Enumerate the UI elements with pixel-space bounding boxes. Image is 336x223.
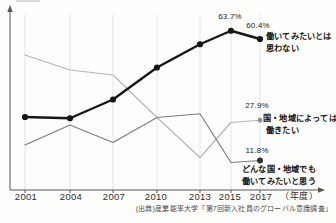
series-label-depends-line2: 働きたい xyxy=(266,127,299,135)
x-tick-label-2010: 2010 xyxy=(145,192,167,202)
x-axis-arrow-icon xyxy=(318,187,325,192)
data-point xyxy=(257,36,263,42)
series-label-depends-line1: 国・地域によっては xyxy=(263,115,336,123)
series-label-not-want-line1: 働いてみたいとは xyxy=(266,33,332,41)
series-label-not-want-line2: 思わない xyxy=(266,45,299,53)
x-tick-label-2013: 2013 xyxy=(189,192,211,202)
series-line-1 xyxy=(25,55,260,158)
series-line-0 xyxy=(25,31,260,119)
series-line-2 xyxy=(25,114,260,163)
data-point xyxy=(110,96,116,102)
data-point xyxy=(257,158,263,164)
x-tick-label-2001: 2001 xyxy=(15,192,37,202)
data-point xyxy=(67,115,73,121)
value-label-63-7: 63.7% xyxy=(218,13,242,21)
series-label-anywhere-line1: どんな国・地域でも xyxy=(242,166,316,174)
y-axis-arrow-icon xyxy=(7,5,12,12)
data-point xyxy=(154,64,160,70)
data-point xyxy=(258,118,263,123)
x-tick-label-2004: 2004 xyxy=(60,192,82,202)
x-tick-label-2015: 2015 xyxy=(219,192,241,202)
x-tick-label-2007: 2007 xyxy=(103,192,125,202)
data-point xyxy=(228,28,234,34)
survey-line-chart: 63.7% 60.4% 27.9% 11.8% 働いてみたいとは 思わない 国・… xyxy=(0,0,336,223)
series-label-anywhere-line2: 働いてみたいと思う xyxy=(242,178,316,186)
data-point xyxy=(197,41,203,47)
data-point xyxy=(22,114,28,120)
source-citation: (出典)産業能率大学「第7回新入社員のグローバル意識調査」 xyxy=(136,203,332,213)
x-tick-label-2017: 2017 xyxy=(250,192,272,202)
value-label-60-4: 60.4% xyxy=(246,22,270,30)
value-label-11-8: 11.8% xyxy=(245,147,268,155)
x-axis-unit-label: （年度） xyxy=(280,192,318,201)
value-label-27-9: 27.9% xyxy=(245,102,269,110)
